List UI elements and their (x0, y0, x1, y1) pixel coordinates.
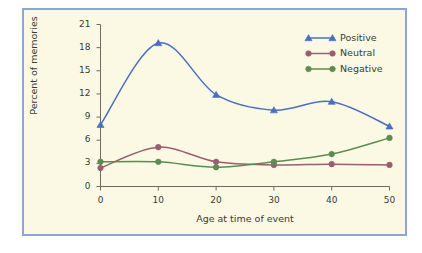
y-axis-tick-label: 15 (59, 65, 91, 75)
legend-marker-neutral (306, 51, 312, 57)
x-axis-tick-label: 50 (374, 195, 406, 205)
x-axis-tick-label: 40 (316, 195, 348, 205)
data-point-negative (271, 159, 277, 165)
legend-entry-positive[interactable] (305, 35, 336, 41)
y-axis-title: Percent of memories (28, 11, 39, 121)
data-point-neutral (329, 161, 335, 167)
y-axis-tick-label: 0 (59, 181, 91, 191)
x-axis-title: Age at time of event (100, 213, 390, 224)
series-neutral (98, 144, 393, 170)
legend-marker-negative (306, 66, 312, 72)
y-axis-tick-label: 18 (59, 42, 91, 52)
x-axis-tick-label: 10 (142, 195, 174, 205)
legend-entry-neutral[interactable] (306, 51, 336, 57)
data-point-negative (156, 159, 162, 165)
legend-label-neutral: Neutral (340, 47, 375, 58)
data-point-neutral (98, 165, 104, 171)
data-point-neutral (156, 144, 162, 150)
data-point-negative (329, 151, 335, 157)
y-axis-tick-label: 21 (59, 19, 91, 29)
x-axis-tick-label: 0 (85, 195, 117, 205)
x-axis-tick-label: 20 (200, 195, 232, 205)
y-axis-tick-label: 12 (59, 88, 91, 98)
legend-label-negative: Negative (340, 63, 383, 74)
legend-marker-neutral (330, 51, 336, 57)
data-point-negative (387, 135, 393, 141)
data-point-neutral (387, 162, 393, 168)
y-axis-tick-label: 6 (59, 134, 91, 144)
legend-marker-negative (330, 66, 336, 72)
data-point-negative (213, 164, 219, 170)
legend-label-positive: Positive (340, 32, 377, 43)
data-point-positive (97, 121, 104, 127)
x-axis-tick-label: 30 (258, 195, 290, 205)
data-point-neutral (213, 159, 219, 165)
legend-entry-negative[interactable] (306, 66, 336, 72)
series-line-negative (101, 138, 390, 167)
y-axis-tick-label: 3 (59, 157, 91, 167)
data-point-negative (98, 159, 104, 165)
figure-canvas: 036912151821 01020304050 Age at time of … (0, 0, 422, 253)
y-axis-tick-label: 9 (59, 111, 91, 121)
